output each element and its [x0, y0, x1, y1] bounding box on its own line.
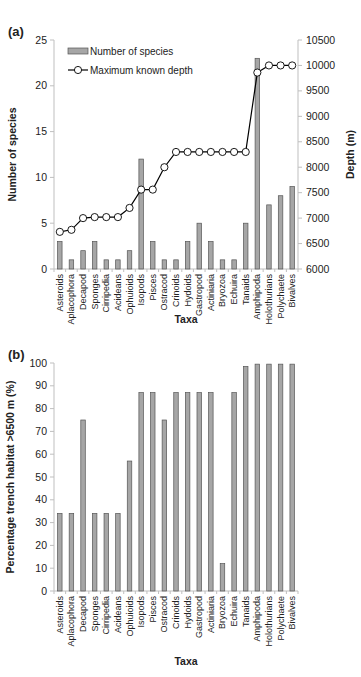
bar-echuira [232, 393, 237, 591]
x-category-label: Bivalves [287, 596, 297, 630]
bar-actiniaria [209, 242, 214, 269]
y-tick-label: 50 [35, 471, 47, 483]
x-category-label: Polychaete [276, 596, 286, 641]
depth-marker [172, 148, 179, 155]
panel-label: (b) [8, 347, 25, 362]
panel-label: (a) [8, 24, 24, 39]
y-tick-label: 40 [35, 493, 47, 505]
bar-tanaids [243, 223, 248, 269]
bar-asteroids [58, 242, 63, 269]
x-category-label: Isopods [136, 274, 146, 306]
bar-tanaids [243, 366, 248, 591]
depth-marker [184, 148, 191, 155]
bar-cirripedia [104, 513, 109, 591]
x-category-label: Bryozoa [217, 274, 227, 307]
depth-marker [230, 148, 237, 155]
bar-pisces [151, 242, 156, 269]
depth-marker [114, 213, 121, 220]
x-category-label: Holothurians [264, 596, 274, 647]
y-tick-label: 80 [35, 402, 47, 414]
depth-marker [79, 215, 86, 222]
x-category-label: Amphipoda [252, 274, 262, 320]
y-tick-label: 0 [41, 263, 47, 275]
x-category-label: Sponges [90, 274, 100, 310]
depth-marker [103, 213, 110, 220]
bar-hydoids [185, 393, 190, 591]
bar-isopods [139, 159, 144, 269]
bar-crinoids [174, 260, 179, 269]
chart-panel-a: (a)0510152025AsteroidsAplacophoraDecapod… [6, 24, 356, 325]
y-tick-label: 15 [35, 125, 47, 137]
bar-aplacophora [69, 260, 74, 269]
y2-tick-label: 9000 [306, 110, 330, 122]
bar-pisces [151, 393, 156, 591]
depth-marker [149, 186, 156, 193]
bar-amphipoda [255, 58, 259, 269]
x-category-label: Bryozoa [217, 596, 227, 629]
depth-marker [196, 148, 203, 155]
x-category-label: Aplacophora [66, 596, 76, 647]
bar-asteroids [58, 513, 63, 591]
y2-tick-label: 7000 [306, 212, 330, 224]
bar-bryozoa [220, 564, 225, 591]
legend-label-depth: Maximum known depth [90, 65, 193, 76]
legend-label-species: Number of species [90, 46, 173, 57]
y-tick-label: 70 [35, 425, 47, 437]
depth-marker [265, 62, 272, 69]
chart-panel-b: (b)0102030405060708090100AsteroidsAplaco… [4, 347, 298, 667]
x-category-label: Actiniaria [206, 596, 216, 633]
bar-cirripedia [104, 260, 109, 269]
y-tick-label: 60 [35, 448, 47, 460]
x-category-label: Actiniaria [206, 274, 216, 311]
y2-tick-label: 10500 [306, 34, 335, 46]
x-category-label: Tanaids [241, 274, 251, 306]
x-category-label: Amphipoda [252, 596, 262, 642]
y2-tick-label: 9500 [306, 84, 330, 96]
y2-axis-title: Depth (m) [344, 130, 356, 179]
x-category-label: Ostracod [159, 274, 169, 311]
bar-bryozoa [220, 260, 225, 269]
y2-tick-label: 10000 [306, 59, 335, 71]
x-category-label: Pisces [148, 596, 158, 623]
x-category-label: Crinoids [171, 596, 181, 630]
bar-polychaete [278, 196, 283, 269]
x-category-label: Echuira [229, 596, 239, 627]
bar-bivalves [290, 187, 295, 269]
x-category-label: Holothurians [264, 274, 274, 325]
depth-marker [91, 213, 98, 220]
figure: (a)0510152025AsteroidsAplacophoraDecapod… [0, 0, 361, 677]
x-category-label: Aplacophora [66, 274, 76, 325]
depth-marker [138, 186, 145, 193]
x-category-label: Asteroids [55, 596, 65, 634]
bar-crinoids [174, 393, 179, 591]
bar-amphipoda [255, 364, 259, 591]
bar-ophuioids [127, 251, 131, 269]
depth-marker [68, 226, 75, 233]
depth-marker [242, 148, 249, 155]
x-category-label: Gastropod [194, 274, 204, 316]
x-category-label: Tanaids [241, 596, 251, 628]
x-axis-title: Taxa [174, 655, 197, 667]
bar-acideans [116, 260, 121, 269]
y-tick-label: 30 [35, 516, 47, 528]
y-tick-label: 20 [35, 79, 47, 91]
x-category-label: Hydoids [183, 596, 193, 629]
y-tick-label: 20 [35, 539, 47, 551]
x-category-label: Polychaete [276, 274, 286, 319]
depth-marker [56, 228, 63, 235]
depth-marker [126, 204, 133, 211]
bar-decapod [81, 420, 86, 591]
x-category-label: Ostracod [159, 596, 169, 633]
bar-ostracod [162, 420, 167, 591]
y2-tick-label: 8000 [306, 161, 330, 173]
depth-marker [254, 69, 261, 76]
legend: Number of speciesMaximum known depth [68, 46, 193, 76]
x-category-label: Decapod [78, 596, 88, 632]
bar-holothurians [267, 364, 272, 591]
y-tick-label: 10 [35, 562, 47, 574]
depth-marker [289, 62, 296, 69]
y2-tick-label: 7500 [306, 186, 330, 198]
x-category-label: Acideans [113, 274, 123, 312]
y-tick-label: 5 [41, 217, 47, 229]
x-category-label: Isopods [136, 596, 146, 628]
